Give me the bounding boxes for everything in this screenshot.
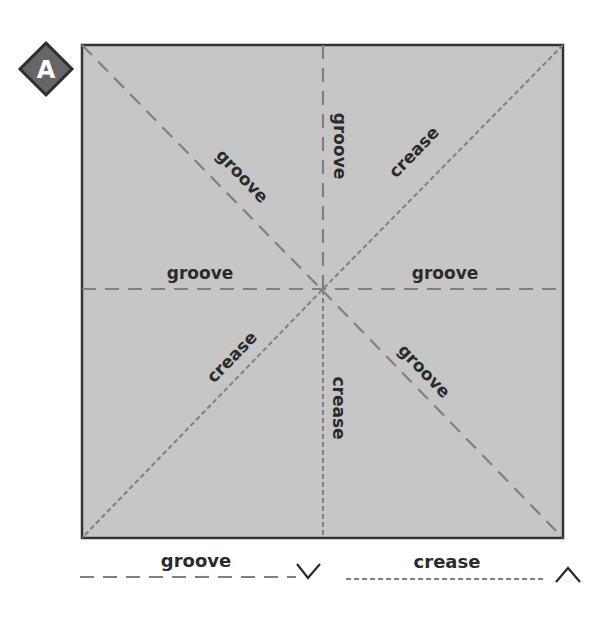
badge-letter: A [37,56,56,84]
mountain-fold-caret-icon [556,568,580,582]
step-badge: A [20,43,72,95]
label-right-horizontal: groove [412,263,479,283]
fold-diagram: A groove groove crease groove groove cre… [0,0,613,620]
valley-fold-v-icon [297,564,320,578]
label-left-horizontal: groove [167,263,234,283]
legend-groove: groove [80,550,320,578]
legend-crease-label: crease [414,551,481,572]
label-top-vertical: groove [330,113,350,180]
label-bottom-vertical: crease [329,376,349,439]
legend-crease: crease [346,551,580,582]
legend-groove-label: groove [161,550,231,571]
